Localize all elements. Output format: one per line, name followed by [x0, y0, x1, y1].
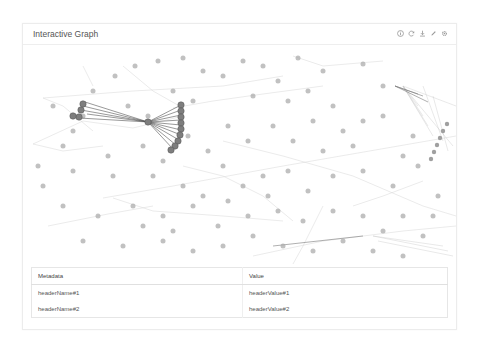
network-graph-canvas[interactable]	[23, 46, 456, 265]
column-header-value: Value	[243, 268, 448, 285]
right-dark-edges	[273, 86, 428, 246]
card-toolbar	[396, 29, 448, 38]
info-icon[interactable]	[396, 29, 404, 38]
right-fan-edges	[373, 86, 456, 256]
metadata-cell: headerName#2	[32, 301, 243, 318]
metadata-table: Metadata Value headerName#1 headerValue#…	[31, 267, 448, 318]
download-icon[interactable]	[418, 29, 426, 38]
value-cell: headerValue#1	[243, 285, 448, 302]
card-title: Interactive Graph	[33, 29, 98, 39]
gear-icon[interactable]	[440, 29, 448, 38]
network-graph[interactable]	[23, 46, 456, 265]
right-cluster-nodes	[429, 122, 449, 161]
table-row: headerName#1 headerValue#1	[32, 285, 448, 302]
value-cell: headerValue#2	[243, 301, 448, 318]
graph-nodes	[36, 56, 441, 259]
table-header-row: Metadata Value	[32, 268, 448, 285]
graph-card: Interactive Graph	[22, 23, 457, 330]
graph-edges	[33, 56, 456, 264]
column-header-metadata: Metadata	[32, 268, 243, 285]
table-row: headerName#2 headerValue#2	[32, 301, 448, 318]
refresh-icon[interactable]	[407, 29, 415, 38]
edit-icon[interactable]	[429, 29, 437, 38]
metadata-cell: headerName#1	[32, 285, 243, 302]
card-header: Interactive Graph	[23, 24, 456, 45]
highlighted-edges	[79, 102, 181, 149]
